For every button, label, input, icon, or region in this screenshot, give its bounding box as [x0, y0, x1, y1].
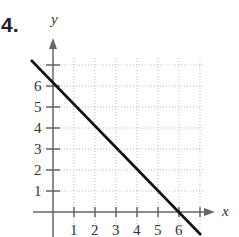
y-tick-labels: 1 2 3 4 5 6 [34, 78, 42, 199]
ticks [46, 65, 200, 217]
y-axis-arrow-icon [49, 38, 57, 49]
svg-text:3: 3 [112, 222, 120, 237]
y-axis-label: y [49, 11, 58, 27]
axes [33, 38, 215, 237]
svg-text:4: 4 [34, 120, 42, 136]
svg-text:5: 5 [34, 99, 42, 115]
svg-text:3: 3 [34, 141, 42, 157]
svg-text:4: 4 [133, 222, 141, 237]
graph: 4. y x 1 2 3 4 5 6 1 2 3 4 5 6 [0, 0, 239, 237]
svg-text:6: 6 [175, 222, 183, 237]
svg-text:1: 1 [34, 183, 42, 199]
x-axis-label: x [221, 203, 229, 219]
svg-text:1: 1 [70, 222, 78, 237]
x-axis-arrow-icon [204, 208, 215, 216]
svg-text:6: 6 [34, 78, 42, 94]
svg-text:5: 5 [154, 222, 162, 237]
grid [40, 58, 205, 235]
svg-text:2: 2 [34, 162, 42, 178]
svg-text:2: 2 [91, 222, 99, 237]
problem-number: 4. [1, 13, 19, 36]
x-tick-labels: 1 2 3 4 5 6 [70, 222, 183, 237]
